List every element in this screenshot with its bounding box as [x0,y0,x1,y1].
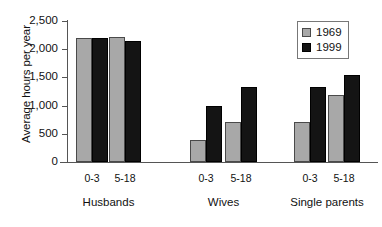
y-axis-tick-label: 2,000 [0,42,58,54]
y-axis-tick [62,162,67,163]
bar-1999-single-parents-5-18 [344,75,360,162]
bar-1999-single-parents-0-3 [310,87,326,162]
bar-1969-husbands-0-3 [76,38,92,162]
x-axis-line [60,162,378,163]
legend-item: 1969 [302,25,342,40]
y-axis-tick-label: 2,500 [0,14,58,26]
x-axis-subcategory-label: 0-3 [84,172,99,184]
bar-1999-wives-0-3 [206,106,222,162]
legend: 1969 1999 [297,21,349,59]
bar-1999-husbands-5-18 [125,41,141,162]
bar-1969-wives-0-3 [190,140,206,162]
x-axis-group-label: Wives [208,196,239,208]
y-axis-tick-label: 0 [0,155,58,167]
x-axis-subcategory-label: 0-3 [198,172,213,184]
y-axis-tick-label: 1,000 [0,99,58,111]
bar-1969-single-parents-0-3 [294,122,310,162]
bar-chart: Average hours per year 2,5002,0001,5001,… [0,0,382,227]
bar-1969-husbands-5-18 [109,37,125,162]
bar-1969-wives-5-18 [225,122,241,162]
x-axis-subcategory-label: 5-18 [230,172,251,184]
legend-swatch-1969-icon [302,28,311,37]
bar-1969-single-parents-5-18 [328,95,344,162]
y-axis-tick-label: 500 [0,127,58,139]
bar-1999-wives-5-18 [241,87,257,162]
y-axis-tick-label: 1,500 [0,70,58,82]
legend-label-1999: 1999 [316,42,342,54]
x-axis-subcategory-label: 5-18 [333,172,354,184]
y-axis-title: Average hours per year [20,4,32,164]
x-axis-subcategory-label: 5-18 [114,172,135,184]
legend-item: 1999 [302,40,342,55]
x-axis-subcategory-label: 0-3 [302,172,317,184]
bar-1999-husbands-0-3 [92,38,108,162]
legend-swatch-1999-icon [302,43,311,52]
legend-label-1969: 1969 [316,27,342,39]
x-axis-group-label: Husbands [83,196,135,208]
x-axis-group-label: Single parents [290,196,364,208]
